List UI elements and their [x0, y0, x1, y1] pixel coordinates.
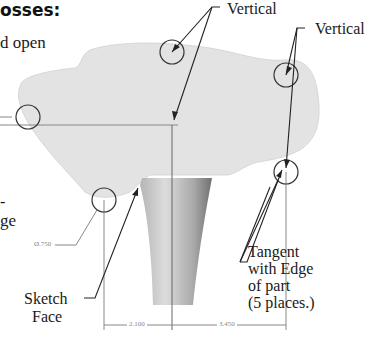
callout-tangent-line: Tangent — [248, 243, 299, 260]
stem-extrusion — [140, 178, 212, 305]
callout-tangent-line: of part — [248, 277, 290, 294]
callout-sketch-face-line: Face — [32, 308, 62, 325]
callout-tangent-line: with Edge — [248, 260, 313, 277]
width-dimension-right: 3.450 — [217, 320, 237, 328]
diameter-dimension: Ø.750 — [32, 240, 53, 248]
callout-vertical-top: Vertical — [227, 0, 277, 17]
callout-sketch-face-line: Sketch — [24, 290, 68, 307]
callout-tangent-line: (5 places.) — [248, 294, 315, 311]
callout-vertical-right: Vertical — [315, 20, 365, 37]
width-dimension-left: 2.100 — [127, 320, 147, 328]
